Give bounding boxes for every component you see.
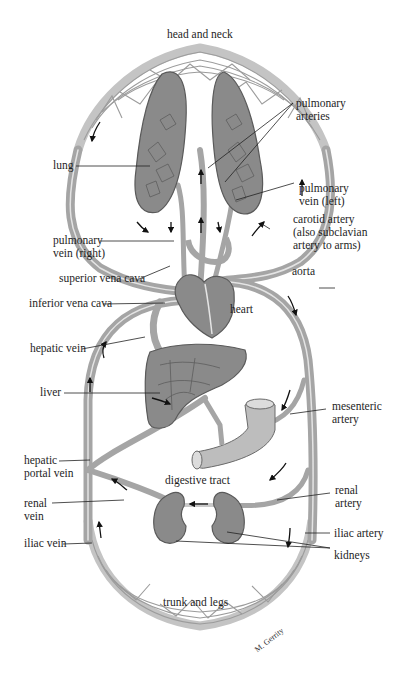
- label-renal-artery: renal artery: [335, 484, 362, 510]
- label-renal-vein: renal vein: [24, 497, 47, 523]
- kidneys: [154, 492, 245, 543]
- label-pulmonary-vein-right: pulmonary vein (right): [53, 234, 105, 260]
- label-digestive-tract: digestive tract: [165, 474, 230, 487]
- label-superior-vena-cava: superior vena cava: [59, 272, 145, 285]
- digestive-tract: [192, 399, 275, 469]
- label-kidneys: kidneys: [334, 549, 370, 562]
- label-carotid-artery: carotid artery (also subclavian artery t…: [293, 213, 367, 252]
- label-iliac-vein: iliac vein: [24, 537, 66, 550]
- label-hepatic-vein: hepatic vein: [30, 342, 86, 355]
- label-pulmonary-arteries: pulmonary arteries: [296, 97, 346, 123]
- label-heart: heart: [230, 303, 253, 316]
- label-hepatic-portal-vein: hepatic portal vein: [24, 454, 74, 480]
- label-pulmonary-vein-left: pulmonary vein (left): [299, 182, 349, 208]
- label-trunk-and-legs: trunk and legs: [163, 596, 228, 609]
- label-lung: lung: [53, 159, 73, 172]
- label-head-and-neck: head and neck: [167, 28, 233, 41]
- label-inferior-vena-cava: inferior vena cava: [29, 297, 112, 310]
- label-aorta: aorta: [292, 265, 315, 278]
- label-liver: liver: [40, 386, 61, 399]
- label-mesenteric-artery: mesenteric artery: [332, 400, 382, 426]
- trunk-legs-capillary-bed: [88, 520, 312, 626]
- liver: [145, 344, 246, 428]
- label-iliac-artery: iliac artery: [334, 527, 383, 540]
- lungs: [135, 72, 263, 214]
- head-neck-capillary-bed: [78, 48, 326, 150]
